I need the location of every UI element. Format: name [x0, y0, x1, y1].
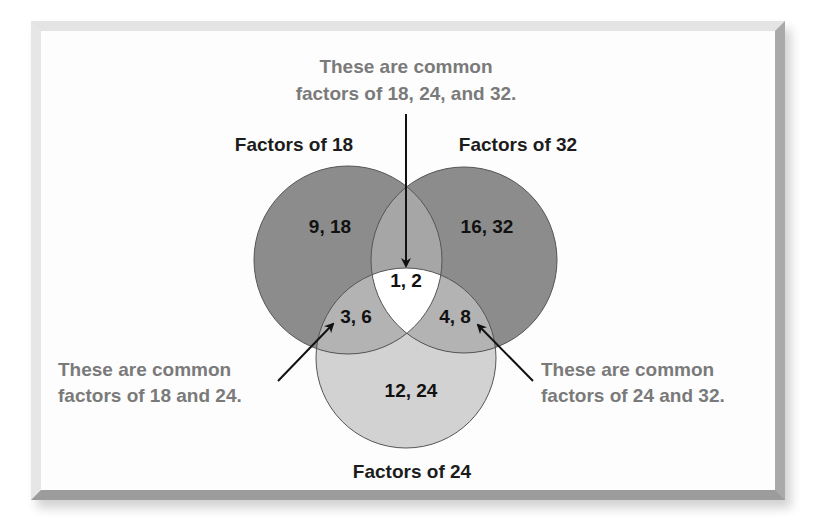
annotation-right-line1: These are common [541, 359, 714, 380]
annotation-left-line2: factors of 18 and 24. [58, 385, 242, 406]
label-factors-18: Factors of 18 [235, 134, 353, 155]
label-factors-32: Factors of 32 [459, 134, 577, 155]
annotation-left-line1: These are common [58, 359, 231, 380]
venn-diagram: Factors of 18 Factors of 32 Factors of 2… [0, 0, 813, 532]
annotation-right-line2: factors of 24 and 32. [541, 385, 725, 406]
region-all-three: 1, 2 [390, 270, 422, 291]
region-18-24: 3, 6 [340, 306, 372, 327]
region-only-24: 12, 24 [385, 380, 438, 401]
region-only-18: 9, 18 [309, 216, 351, 237]
annotation-top-line2: factors of 18, 24, and 32. [296, 83, 517, 104]
region-24-32: 4, 8 [439, 306, 471, 327]
region-only-32: 16, 32 [461, 216, 514, 237]
annotation-top-line1: These are common [319, 56, 492, 77]
label-factors-24: Factors of 24 [353, 461, 472, 482]
